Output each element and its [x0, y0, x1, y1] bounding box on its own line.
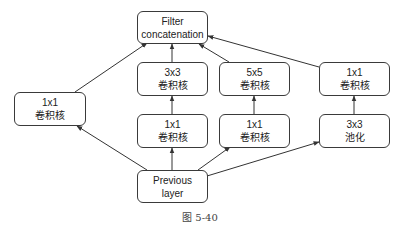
node-label-line2: 卷积核	[35, 109, 65, 122]
node-label-line2: 卷积核	[158, 79, 188, 92]
node-label-line2: layer	[162, 187, 184, 200]
node-conv1x1_pool: 1x1卷积核	[319, 62, 390, 96]
node-label-line1: 1x1	[42, 96, 58, 109]
inception-diagram: Filterconcatenation3x3卷积核5x5卷积核1x1卷积核1x1…	[0, 0, 400, 229]
node-label-line2: concatenation	[141, 28, 203, 41]
node-label-line2: 卷积核	[340, 79, 370, 92]
node-conv1x1_b: 1x1卷积核	[219, 114, 290, 148]
node-conv1x1_direct: 1x1卷积核	[14, 92, 86, 126]
node-label-line1: Previous	[153, 174, 192, 187]
node-label-line1: 3x3	[346, 118, 362, 131]
edge-conv5x5-to-concat	[199, 44, 229, 62]
node-label-line1: Filter	[161, 15, 183, 28]
node-conv3x3: 3x3卷积核	[137, 62, 208, 96]
node-label-line1: 1x1	[246, 118, 262, 131]
node-pool3x3: 3x3池化	[319, 114, 390, 148]
node-conv1x1_a: 1x1卷积核	[137, 114, 208, 148]
node-label-line1: 3x3	[164, 66, 180, 79]
node-label-line2: 卷积核	[158, 131, 188, 144]
node-label-line1: 1x1	[346, 66, 362, 79]
node-label-line1: 1x1	[164, 118, 180, 131]
edge-prev-to-conv1x1_b	[198, 147, 230, 170]
node-concat: Filterconcatenation	[137, 11, 208, 44]
node-label-line1: 5x5	[246, 66, 262, 79]
node-conv5x5: 5x5卷积核	[219, 62, 290, 96]
figure-caption: 图 5-40	[0, 209, 400, 224]
node-label-line2: 卷积核	[240, 79, 270, 92]
node-label-line2: 池化	[345, 131, 365, 144]
node-label-line2: 卷积核	[240, 131, 270, 144]
node-prev: Previouslayer	[137, 170, 208, 203]
